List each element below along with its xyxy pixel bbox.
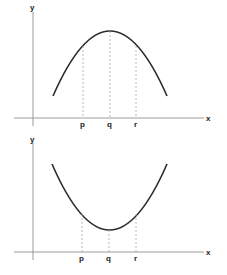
top-point-r-label: r [134, 120, 137, 129]
top-point-q-label: q [107, 120, 112, 129]
bottom-point-q-label: q [106, 254, 111, 263]
bottom-curve [52, 164, 167, 230]
bottom-point-p-label: p [79, 254, 84, 263]
bottom-point-r-label: r [134, 254, 137, 263]
top-x-label: x [206, 114, 211, 123]
bottom-graph: y x p q r [14, 135, 211, 263]
bottom-x-label: x [206, 248, 211, 257]
diagram-canvas: y x p q r y x p q r [0, 0, 227, 275]
top-point-p-label: p [80, 120, 85, 129]
bottom-y-label: y [30, 135, 35, 144]
top-y-label: y [30, 3, 35, 12]
top-graph: y x p q r [14, 3, 211, 129]
